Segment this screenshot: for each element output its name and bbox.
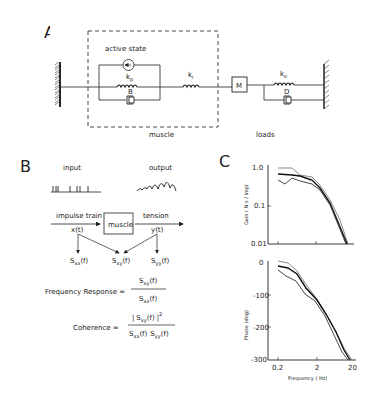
output-label: output [149, 164, 172, 172]
gain-ytick-1: 1.0 [252, 164, 263, 172]
tension-label: tension [143, 212, 169, 220]
sxy-label: Sxy(f) [112, 257, 131, 267]
left-wall-hatch [55, 64, 60, 107]
phase-ytick-0: 0 [259, 259, 263, 267]
sxx-label: Sxx(f) [70, 257, 89, 266]
ki-label: ki [188, 71, 193, 80]
impulse-train-label: impulse train [56, 212, 102, 220]
spring-ki-icon [183, 85, 199, 87]
force-source-icon [123, 60, 134, 71]
freq-resp-numerator: Sxy(f) [139, 277, 158, 287]
coherence-numerator: |Sxy(f)|2 [132, 311, 162, 324]
panel-a: A active state kp [44, 20, 329, 139]
phase-ylabel: Phase (deg) [243, 310, 250, 340]
mass-label: M [236, 82, 242, 90]
kp-label: kp [126, 73, 133, 83]
input-label: input [63, 164, 81, 172]
phase-xtick-20: 20 [348, 364, 357, 372]
phase-ytick-300: -300 [251, 356, 267, 364]
freq-resp-denominator: Sxx(f) [139, 295, 158, 304]
ke-label: ke [280, 70, 287, 79]
coherence-denominator: Sxx(f)Syy(f) [129, 330, 169, 340]
phase-lower-line [278, 270, 348, 360]
x-of-t-label: x(t) [71, 226, 84, 234]
spring-ke-icon [274, 83, 294, 85]
coherence-label: Coherence = [73, 324, 119, 332]
figure-canvas: A active state kp [0, 0, 377, 398]
spring-kp-icon [117, 85, 137, 87]
panel-c: C 1.0 0.1 0.01 Gain ( N s / imp) 0 [219, 152, 357, 382]
phase-upper-line [278, 261, 352, 360]
syy-label: Syy(f) [151, 257, 170, 267]
gain-chart: 1.0 0.1 0.01 Gain ( N s / imp) [243, 164, 354, 248]
damper-b-label: B [128, 88, 133, 96]
phase-ytick-200: -200 [253, 324, 269, 332]
panel-b: B input output impulse train x(t) muscle… [20, 157, 183, 340]
phase-ytick-100: -100 [253, 292, 269, 300]
gain-ytick-0-01: 0.01 [251, 240, 267, 248]
loads-label: loads [256, 131, 275, 139]
phase-xtick-2: 2 [315, 364, 319, 372]
phase-xlabel: Frequency ( Hz) [288, 375, 327, 382]
muscle-box-label: muscle [108, 221, 133, 229]
damper-d-icon [284, 96, 291, 104]
gain-upper-line [278, 168, 348, 244]
frequency-response-label: Frequency Response = [45, 288, 125, 296]
y-of-t-label: y(t) [151, 226, 164, 234]
panel-b-label: B [20, 157, 31, 176]
damper-b-icon [127, 96, 134, 104]
impulse-train-graphic [51, 186, 101, 192]
tension-waveform-graphic [137, 182, 176, 191]
gain-ylabel: Gain ( N s / imp) [243, 184, 250, 225]
gain-ytick-0-1: 0.1 [254, 202, 265, 210]
active-state-label: active state [105, 45, 146, 53]
damper-d-label: D [284, 88, 289, 96]
muscle-label: muscle [149, 131, 174, 139]
phase-chart: 0 -100 -200 -300 Phase (deg) 0.2 2 20 Fr… [243, 259, 357, 382]
panel-c-label: C [219, 152, 230, 171]
right-wall-icon [324, 60, 329, 109]
phase-xtick-0-2: 0.2 [272, 364, 283, 372]
